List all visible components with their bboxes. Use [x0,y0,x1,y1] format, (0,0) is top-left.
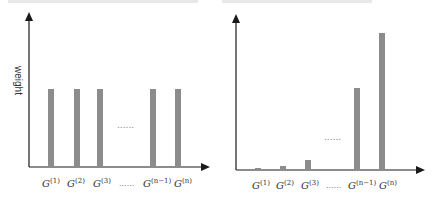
left-bar-g3 [97,89,103,167]
left-label-ellipsis: ...... [119,179,134,188]
right-label-g2: G(2) [276,179,294,191]
left-bar-gn [175,89,181,167]
right-label-gn: G(n) [379,179,397,191]
right-label-gn-1: G(n−1) [348,179,377,191]
right-bar-gn-1 [354,88,360,170]
left-label-g2: G(2) [67,177,85,189]
left-y-axis-arrow-icon [25,12,33,21]
right-chart: ...... G(1) G(2) G(3) ...... G(n−1) G(n) [232,14,425,191]
right-bar-g2 [280,166,286,170]
left-label-g1: G(1) [42,177,60,189]
left-bar-g1 [48,89,54,167]
left-label-gn: G(n) [174,177,192,189]
cropped-text-strip [8,0,198,3]
right-label-g3: G(3) [301,179,319,191]
left-chart: weight ...... G(1) G(2) G(3) ...... G(n−… [13,12,210,189]
right-bar-gn [379,33,385,170]
left-bar-g2 [74,89,80,167]
left-bar-gn-1 [150,89,156,167]
right-ellipsis: ...... [324,132,341,142]
cropped-text-strip [222,0,372,3]
left-x-axis-arrow-icon [201,163,210,171]
charts-svg: weight ...... G(1) G(2) G(3) ...... G(n−… [0,0,433,198]
right-bar-g3 [305,160,311,170]
left-label-gn-1: G(n−1) [143,177,172,189]
left-ellipsis: ...... [117,120,134,130]
left-y-label: weight [13,65,24,95]
right-y-axis-arrow-icon [232,14,240,23]
right-label-ellipsis: ...... [326,181,341,190]
right-bar-g1 [255,168,261,170]
figure: weight ...... G(1) G(2) G(3) ...... G(n−… [0,0,433,198]
left-label-g3: G(3) [93,177,111,189]
right-x-axis-arrow-icon [416,166,425,174]
right-label-g1: G(1) [252,179,270,191]
